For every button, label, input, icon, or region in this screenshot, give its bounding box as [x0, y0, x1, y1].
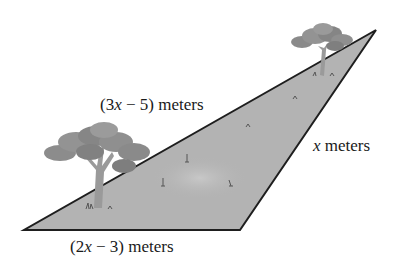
hypotenuse-label: (3x − 5) meters — [100, 96, 204, 113]
right-side-label-var: x — [313, 136, 321, 155]
base-label-suffix: − 3) meters — [92, 237, 174, 256]
right-side-label-suffix: meters — [321, 136, 371, 155]
base-label-var: x — [84, 237, 92, 256]
land-highlight — [152, 156, 248, 200]
right-side-label: x meters — [313, 137, 370, 154]
hypotenuse-label-suffix: − 5) meters — [122, 95, 204, 114]
hypotenuse-label-var: x — [114, 95, 122, 114]
base-label: (2x − 3) meters — [70, 238, 174, 255]
hypotenuse-label-prefix: (3 — [100, 95, 114, 114]
base-label-prefix: (2 — [70, 237, 84, 256]
